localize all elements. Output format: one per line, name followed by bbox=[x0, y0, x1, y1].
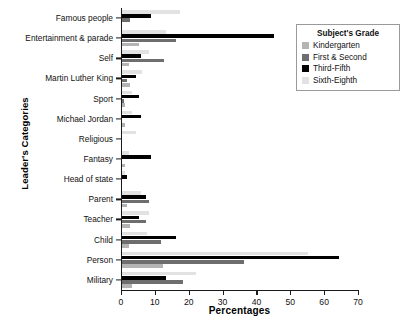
x-axis-tick bbox=[324, 290, 325, 295]
bar-third-fifth bbox=[122, 75, 136, 79]
y-axis-tick-label: Entertainment & parade bbox=[25, 33, 113, 43]
bar-third-fifth bbox=[122, 14, 151, 18]
legend-item: Third-Fifth bbox=[302, 64, 394, 73]
bars bbox=[122, 189, 358, 209]
y-axis-tick-label: Parent bbox=[89, 194, 113, 204]
y-axis-tick-label: Michael Jordan bbox=[57, 114, 113, 124]
y-axis-tick bbox=[116, 179, 121, 180]
bar-sixth-eighth bbox=[122, 10, 180, 14]
bar-kindergarten bbox=[122, 103, 125, 107]
bar-kindergarten bbox=[122, 204, 127, 208]
y-axis-tick-label: Military bbox=[87, 275, 113, 285]
bar-third-fifth bbox=[122, 256, 339, 260]
bar-third-fifth bbox=[122, 115, 141, 119]
bar-first-second bbox=[122, 79, 127, 83]
bar-third-fifth bbox=[122, 216, 139, 220]
bar-group-row: Religious bbox=[121, 129, 358, 149]
legend: Subject's Grade KindergartenFirst & Seco… bbox=[296, 24, 400, 91]
bars bbox=[122, 230, 358, 250]
bar-kindergarten bbox=[122, 43, 139, 47]
bar-third-fifth bbox=[122, 95, 139, 99]
bar-group-row: Fantasy bbox=[121, 149, 358, 169]
y-axis-tick bbox=[116, 158, 121, 159]
bar-sixth-eighth bbox=[122, 211, 149, 215]
bars bbox=[122, 209, 358, 229]
x-axis-tick bbox=[256, 290, 257, 295]
bar-kindergarten bbox=[122, 284, 132, 288]
bar-sixth-eighth bbox=[122, 252, 308, 256]
y-axis-tick-label: Famous people bbox=[56, 13, 113, 23]
x-axis-title: Percentages bbox=[121, 305, 358, 316]
legend-label: Third-Fifth bbox=[313, 64, 350, 73]
y-axis-tick bbox=[116, 118, 121, 119]
bar-kindergarten bbox=[122, 264, 163, 268]
legend-swatch-icon bbox=[302, 42, 309, 49]
bar-group-row: Michael Jordan bbox=[121, 109, 358, 129]
bar-kindergarten bbox=[122, 63, 129, 67]
x-axis-tick bbox=[358, 290, 359, 295]
bar-kindergarten bbox=[122, 123, 125, 127]
legend-item: Sixth-Eighth bbox=[302, 76, 394, 85]
bar-sixth-eighth bbox=[122, 70, 142, 74]
bar-first-second bbox=[122, 18, 130, 22]
bar-group-row: Head of state bbox=[121, 169, 358, 189]
y-axis-tick-label: Martin Luther King bbox=[45, 73, 113, 83]
legend-swatch-icon bbox=[302, 65, 309, 72]
bar-group-row: Military bbox=[121, 270, 358, 290]
y-axis-tick-label: Self bbox=[99, 53, 113, 63]
bars bbox=[122, 250, 358, 270]
y-axis-tick-label: Religious bbox=[79, 134, 113, 144]
chart-figure: Leader's Categories Famous peopleEnterta… bbox=[0, 0, 410, 332]
legend-label: Kindergarten bbox=[313, 41, 360, 50]
y-axis-tick bbox=[116, 38, 121, 39]
legend-label: Sixth-Eighth bbox=[313, 76, 357, 85]
bar-first-second bbox=[122, 240, 161, 244]
bar-third-fifth bbox=[122, 236, 176, 240]
y-axis-tick bbox=[116, 138, 121, 139]
bars bbox=[122, 109, 358, 129]
bar-group-row: Person bbox=[121, 250, 358, 270]
y-axis-tick bbox=[116, 17, 121, 18]
y-axis-tick bbox=[116, 199, 121, 200]
bar-sixth-eighth bbox=[122, 30, 166, 34]
legend-item: First & Second bbox=[302, 53, 394, 62]
bar-group-row: Teacher bbox=[121, 209, 358, 229]
bar-group-row: Sport bbox=[121, 89, 358, 109]
legend-title: Subject's Grade bbox=[302, 29, 394, 38]
y-axis-tick-label: Head of state bbox=[64, 174, 113, 184]
bar-sixth-eighth bbox=[122, 91, 132, 95]
bar-first-second bbox=[122, 99, 124, 103]
bar-first-second bbox=[122, 200, 149, 204]
y-axis-tick-label: Person bbox=[87, 255, 113, 265]
bar-kindergarten bbox=[122, 83, 130, 87]
x-axis-tick bbox=[155, 290, 156, 295]
bar-third-fifth bbox=[122, 54, 141, 58]
bar-third-fifth bbox=[122, 195, 146, 199]
x-axis-tick bbox=[223, 290, 224, 295]
y-axis-tick-label: Child bbox=[94, 235, 113, 245]
legend-item: Kindergarten bbox=[302, 41, 394, 50]
y-axis-tick-label: Sport bbox=[93, 94, 113, 104]
bar-sixth-eighth bbox=[122, 232, 147, 236]
bar-sixth-eighth bbox=[122, 111, 132, 115]
y-axis-tick-label: Teacher bbox=[83, 214, 113, 224]
y-axis-tick bbox=[116, 259, 121, 260]
bar-kindergarten bbox=[122, 164, 125, 168]
y-axis-tick bbox=[116, 239, 121, 240]
bar-sixth-eighth bbox=[122, 131, 136, 135]
bar-kindergarten bbox=[122, 244, 129, 248]
bar-first-second bbox=[122, 280, 183, 284]
legend-rows: KindergartenFirst & SecondThird-FifthSix… bbox=[302, 41, 394, 85]
bar-first-second bbox=[122, 59, 164, 63]
bar-group-row: Parent bbox=[121, 189, 358, 209]
bars bbox=[122, 149, 358, 169]
y-axis-tick bbox=[116, 98, 121, 99]
y-axis-title: Leader's Categories bbox=[19, 44, 30, 244]
legend-label: First & Second bbox=[313, 53, 367, 62]
y-axis-tick bbox=[116, 78, 121, 79]
bar-sixth-eighth bbox=[122, 171, 125, 175]
bar-sixth-eighth bbox=[122, 151, 129, 155]
bar-kindergarten bbox=[122, 224, 130, 228]
bar-third-fifth bbox=[122, 34, 274, 38]
legend-swatch-icon bbox=[302, 77, 309, 84]
